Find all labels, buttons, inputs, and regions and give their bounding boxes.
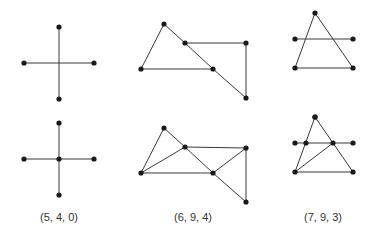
graph-vertex-dot xyxy=(243,145,248,150)
graph-col3-top-edges xyxy=(295,13,353,68)
graph-col3-bottom-vertices xyxy=(292,114,355,174)
graph-vertex-dot xyxy=(210,170,215,175)
graph-edge xyxy=(185,43,213,69)
graph-vertex-dot xyxy=(56,120,61,125)
graph-edge xyxy=(141,24,164,69)
graph-figure xyxy=(0,0,374,233)
edges-layer xyxy=(24,13,353,202)
graph-vertex-dot xyxy=(292,36,297,41)
graph-vertex-dot xyxy=(210,66,215,71)
graph-vertex-dot xyxy=(243,95,248,100)
graph-edge xyxy=(295,13,315,68)
caption-col1: (5, 4, 0) xyxy=(40,211,78,223)
graph-edge xyxy=(213,148,246,173)
graph-vertex-dot xyxy=(56,192,61,197)
graph-edge xyxy=(164,24,185,43)
caption-col3: (7, 9, 3) xyxy=(304,211,342,223)
graph-vertex-dot xyxy=(91,60,96,65)
graph-edge xyxy=(213,173,246,202)
graph-col2-bottom-edges xyxy=(141,128,246,202)
graph-vertex-dot xyxy=(303,140,308,145)
graph-vertex-dot xyxy=(292,140,297,145)
graph-col1-top-edges xyxy=(24,27,94,99)
graph-vertex-dot xyxy=(21,60,26,65)
graph-vertex-dot xyxy=(350,140,355,145)
graph-edge xyxy=(185,147,246,148)
graph-vertex-dot xyxy=(350,169,355,174)
graph-vertex-dot xyxy=(56,96,61,101)
graph-vertex-dot xyxy=(161,21,166,26)
graph-vertex-dot xyxy=(91,156,96,161)
graph-edge xyxy=(164,128,185,147)
graph-vertex-dot xyxy=(350,36,355,41)
graph-vertex-dot xyxy=(138,66,143,71)
graph-vertex-dot xyxy=(330,140,335,145)
graph-vertex-dot xyxy=(21,156,26,161)
graph-vertex-dot xyxy=(182,144,187,149)
graph-vertex-dot xyxy=(56,24,61,29)
graph-vertex-dot xyxy=(161,125,166,130)
graph-vertex-dot xyxy=(292,169,297,174)
graph-vertex-dot xyxy=(312,10,317,15)
graph-col2-top-vertices xyxy=(138,21,248,100)
graph-vertex-dot xyxy=(292,65,297,70)
graph-edge xyxy=(185,147,213,173)
graph-edge xyxy=(213,69,246,98)
graph-vertex-dot xyxy=(350,65,355,70)
graph-edge xyxy=(315,13,353,68)
graph-vertex-dot xyxy=(312,114,317,119)
graph-vertex-dot xyxy=(243,40,248,45)
graph-vertex-dot xyxy=(243,199,248,204)
graph-col3-bottom-edges xyxy=(295,117,353,172)
graph-vertex-dot xyxy=(56,156,61,161)
graph-vertex-dot xyxy=(182,40,187,45)
graph-col2-top-edges xyxy=(141,24,246,98)
caption-col2: (6, 9, 4) xyxy=(174,211,212,223)
graph-vertex-dot xyxy=(138,170,143,175)
